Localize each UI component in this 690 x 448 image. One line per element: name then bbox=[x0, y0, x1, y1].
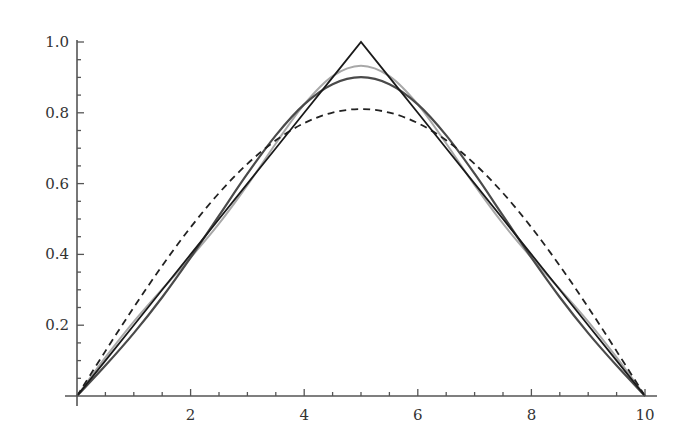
x-tick-label: 4 bbox=[299, 406, 309, 424]
x-tick-label: 10 bbox=[635, 406, 654, 424]
series-3-term-approximation bbox=[77, 66, 645, 396]
y-tick-label: 0.8 bbox=[45, 104, 69, 122]
series-triangle bbox=[77, 42, 645, 396]
y-tick-label: 1.0 bbox=[45, 33, 69, 51]
y-tick-label: 0.6 bbox=[45, 175, 69, 193]
x-tick-label: 2 bbox=[186, 406, 196, 424]
series-2-term-approximation bbox=[77, 77, 645, 396]
y-tick-label: 0.2 bbox=[45, 316, 69, 334]
series-1-term-approximation bbox=[77, 109, 645, 396]
y-tick-label: 0.4 bbox=[45, 245, 69, 263]
y-ticks: 0.20.40.60.81.0 bbox=[45, 33, 84, 378]
line-chart: 246810 0.20.40.60.81.0 bbox=[0, 0, 690, 448]
series-layer bbox=[77, 42, 645, 396]
x-tick-label: 8 bbox=[527, 406, 537, 424]
x-ticks: 246810 bbox=[105, 389, 654, 424]
axes: 246810 0.20.40.60.81.0 bbox=[45, 33, 657, 424]
x-tick-label: 6 bbox=[413, 406, 423, 424]
